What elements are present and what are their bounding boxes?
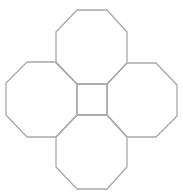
octagon-square-diagram bbox=[0, 0, 183, 196]
center-square bbox=[77, 84, 107, 115]
octagon-bottom bbox=[56, 115, 127, 189]
